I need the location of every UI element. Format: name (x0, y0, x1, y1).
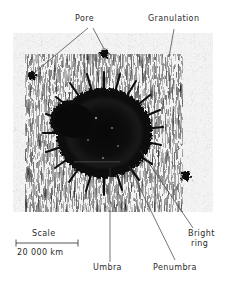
label-pore: Pore (75, 14, 94, 23)
umbra-lobe (55, 104, 93, 138)
label-penumbra: Penumbra (153, 263, 197, 272)
label-bright-ring-line1: Bright (188, 229, 215, 238)
light-bridge (74, 161, 120, 163)
label-umbra: Umbra (93, 263, 122, 272)
label-scale-value: 20 000 km (17, 248, 64, 257)
small-spot (181, 171, 191, 181)
pore-right (99, 48, 108, 57)
photograph-panel (13, 33, 213, 212)
label-bright-ring-line2: ring (191, 239, 208, 248)
pore-left (28, 72, 36, 80)
label-scale-title: Scale (32, 229, 56, 238)
label-granulation: Granulation (148, 14, 199, 23)
